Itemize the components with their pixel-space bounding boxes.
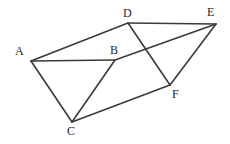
vertex-label-d: D <box>123 7 132 19</box>
vertex-label-e: E <box>207 6 214 18</box>
geometry-figure: ABCDEF <box>0 0 230 144</box>
vertex-label-a: A <box>15 45 24 57</box>
edge-e-f <box>170 24 216 85</box>
edge-b-c <box>72 60 115 122</box>
edge-b-e <box>115 24 216 60</box>
edge-group <box>31 23 216 122</box>
edge-d-e <box>128 23 216 24</box>
edge-c-f <box>72 85 170 122</box>
vertex-label-b: B <box>110 44 118 56</box>
vertex-label-f: F <box>172 88 179 100</box>
edge-a-c <box>31 61 72 122</box>
vertex-label-c: C <box>67 125 75 137</box>
edge-a-b <box>31 60 115 61</box>
figure-canvas <box>0 0 230 144</box>
edge-d-f <box>128 23 170 85</box>
